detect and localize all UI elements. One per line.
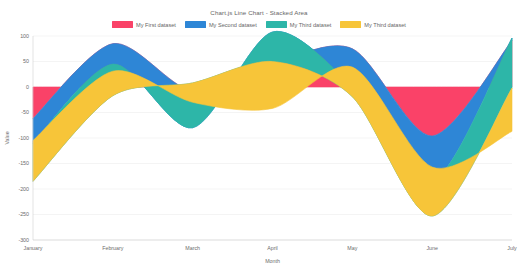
x-tick-label: February <box>102 245 124 251</box>
y-tick-label: -300 <box>18 237 29 243</box>
y-axis-title: Value <box>4 131 10 144</box>
x-tick-label: May <box>347 245 357 251</box>
x-tick-label: January <box>24 245 43 251</box>
x-axis-title: Month <box>265 258 280 264</box>
y-tick-label: 50 <box>23 58 29 64</box>
chart-container: Chart.js Line Chart - Stacked Area My Fi… <box>0 0 518 274</box>
y-tick-label: 0 <box>26 84 29 90</box>
y-tick-label: -150 <box>18 160 29 166</box>
x-tick-label: April <box>267 245 278 251</box>
x-tick-label: March <box>185 245 200 251</box>
x-tick-label: July <box>507 245 517 251</box>
x-tick-label: June <box>426 245 438 251</box>
y-tick-label: -50 <box>21 109 29 115</box>
area-series <box>33 31 512 216</box>
x-tick-labels: JanuaryFebruaryMarchAprilMayJuneJuly <box>24 245 517 251</box>
y-tick-label: -200 <box>18 186 29 192</box>
chart-plot-area: 100500-50-100-150-200-250-300 JanuaryFeb… <box>0 0 518 274</box>
y-tick-label: -250 <box>18 211 29 217</box>
y-tick-labels: 100500-50-100-150-200-250-300 <box>18 33 29 243</box>
y-tick-label: 100 <box>20 33 29 39</box>
y-tick-label: -100 <box>18 135 29 141</box>
